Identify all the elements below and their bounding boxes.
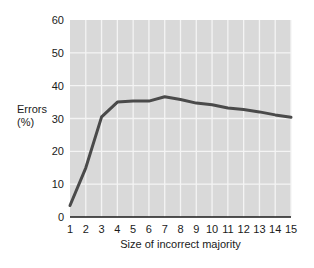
y-axis-ticks: 0102030405060: [52, 14, 64, 223]
x-tick-label: 7: [162, 223, 168, 235]
x-tick-label: 3: [99, 223, 105, 235]
y-axis-label-line2: (%): [17, 116, 34, 128]
x-tick-label: 12: [238, 223, 250, 235]
x-tick-label: 4: [114, 223, 120, 235]
y-tick-label: 20: [52, 145, 64, 157]
x-axis-ticks: 123456789101112131415: [67, 223, 297, 235]
y-tick-label: 0: [58, 211, 64, 223]
y-tick-label: 30: [52, 113, 64, 125]
y-tick-label: 40: [52, 80, 64, 92]
x-axis-label: Size of incorrect majority: [120, 238, 241, 250]
x-tick-label: 11: [222, 223, 233, 235]
y-tick-label: 60: [52, 14, 64, 26]
y-tick-label: 10: [52, 178, 64, 190]
x-tick-label: 10: [206, 223, 218, 235]
errors-line-chart: 0102030405060 123456789101112131415 Erro…: [0, 0, 314, 268]
y-tick-label: 50: [52, 47, 64, 59]
x-tick-label: 8: [177, 223, 183, 235]
y-axis-label-line1: Errors: [17, 103, 47, 115]
x-tick-label: 14: [269, 223, 281, 235]
x-tick-label: 5: [130, 223, 136, 235]
x-tick-label: 9: [193, 223, 199, 235]
x-tick-label: 13: [253, 223, 265, 235]
x-tick-label: 15: [285, 223, 297, 235]
x-tick-label: 6: [146, 223, 152, 235]
x-tick-label: 2: [83, 223, 89, 235]
x-tick-label: 1: [67, 223, 73, 235]
